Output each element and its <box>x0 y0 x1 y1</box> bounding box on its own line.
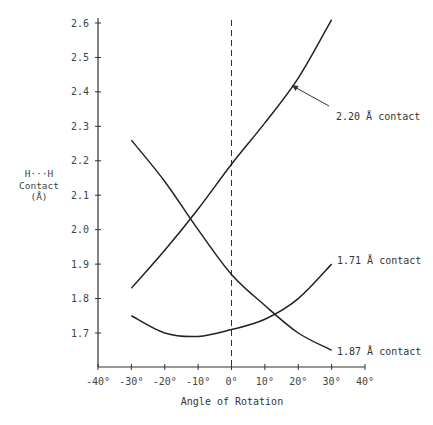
x-tick-label: 20° <box>289 376 307 387</box>
x-tick-label: 40° <box>356 376 374 387</box>
y-axis-label-line: (Å) <box>30 191 47 202</box>
y-tick-label: 2.6 <box>71 18 89 29</box>
y-axis-label-line: Contact <box>19 180 59 191</box>
y-tick-label: 2.0 <box>71 224 89 235</box>
y-tick-label: 2.3 <box>71 121 89 132</box>
y-tick-label: 1.7 <box>71 328 89 339</box>
y-tick-label: 1.8 <box>71 293 89 304</box>
annotation-arrow <box>295 87 329 106</box>
y-axis-label: H···HContact(Å) <box>19 168 59 202</box>
line-chart: 1.71.81.92.02.12.22.32.42.52.6 -40°-30°-… <box>0 0 433 425</box>
curve-label: 1.87 Å contact <box>337 345 421 357</box>
y-tick-label: 1.9 <box>71 259 89 270</box>
y-tick-label: 2.4 <box>71 86 89 97</box>
x-tick-label: -20° <box>153 376 177 387</box>
x-tick-label: 30° <box>323 376 341 387</box>
y-tick-label: 2.5 <box>71 52 89 63</box>
curve-label: 1.71 Å contact <box>337 254 421 266</box>
x-axis-label: Angle of Rotation <box>181 396 283 407</box>
curve-annotations: 2.20 Å contact1.71 Å contact1.87 Å conta… <box>292 85 422 357</box>
y-axis-label-line: H···H <box>25 168 54 179</box>
x-tick-label: -30° <box>119 376 143 387</box>
arrowhead-icon <box>292 85 299 91</box>
x-tick-label: -40° <box>86 376 110 387</box>
x-tick-label: -10° <box>186 376 210 387</box>
x-tick-label: 0° <box>225 376 237 387</box>
y-tick-label: 2.2 <box>71 155 89 166</box>
y-tick-label: 2.1 <box>71 190 89 201</box>
y-axis-ticks: 1.71.81.92.02.12.22.32.42.52.6 <box>71 18 101 339</box>
curve-label: 2.20 Å contact <box>336 110 420 122</box>
x-tick-label: 10° <box>256 376 274 387</box>
